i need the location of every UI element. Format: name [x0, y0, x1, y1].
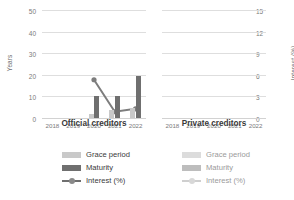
panel-title-official-creditors: Official creditors	[39, 119, 149, 128]
legend-item-grace-period[interactable]: Grace period	[62, 148, 130, 161]
legend-item-interest[interactable]: Interest (%)	[182, 174, 250, 187]
legend-swatch-interest	[62, 178, 81, 184]
legend-swatch-interest	[182, 178, 201, 184]
plot-panels: Years Interest (%) 0 10 20 30 40 50 0 3 …	[0, 0, 294, 128]
plot-area-private-creditors: 20182019202020212022	[162, 10, 266, 119]
y-tick-left-20: 20	[18, 74, 36, 81]
y-tick-left-30: 30	[18, 52, 36, 59]
legend-label-maturity: Maturity	[206, 161, 233, 174]
bar-maturity-2021	[115, 96, 120, 118]
legend-item-maturity[interactable]: Maturity	[62, 161, 130, 174]
legend-item-interest[interactable]: Interest (%)	[62, 174, 130, 187]
legend-item-grace-period[interactable]: Grace period	[182, 148, 250, 161]
legend-swatch-maturity	[182, 165, 201, 171]
legend-swatch-grace-period	[182, 152, 201, 158]
y-axis-title-right: Interest (%)	[290, 46, 294, 81]
bar-maturity-2020	[94, 96, 99, 118]
bar-maturity-2022	[136, 76, 141, 119]
legend-label-interest: Interest (%)	[206, 174, 245, 187]
legend-private-creditors: Grace period Maturity Interest (%)	[182, 148, 250, 187]
y-tick-left-40: 40	[18, 31, 36, 38]
interest-marker-2020	[91, 77, 96, 82]
panel-title-private-creditors: Private creditors	[159, 119, 269, 128]
y-tick-left-0: 0	[18, 117, 36, 124]
legend-swatch-maturity	[62, 165, 81, 171]
legend-item-maturity[interactable]: Maturity	[182, 161, 250, 174]
legend-label-grace-period: Grace period	[206, 148, 250, 161]
legend-label-interest: Interest (%)	[86, 174, 125, 187]
legend-label-grace-period: Grace period	[86, 148, 130, 161]
chart-figure: Years Interest (%) 0 10 20 30 40 50 0 3 …	[0, 0, 294, 200]
y-tick-left-10: 10	[18, 95, 36, 102]
bar-grace-period-2021	[109, 110, 114, 118]
bar-grace-period-2020	[89, 114, 94, 118]
interest-line-private	[162, 10, 266, 119]
legend-official-creditors: Grace period Maturity Interest (%)	[62, 148, 130, 187]
legend-label-maturity: Maturity	[86, 161, 113, 174]
legend-swatch-grace-period	[62, 152, 81, 158]
y-axis-title-left: Years	[6, 55, 13, 72]
plot-area-official-creditors: 20182019202020212022	[42, 10, 146, 119]
bar-grace-period-2022	[130, 108, 135, 118]
y-tick-left-50: 50	[18, 9, 36, 16]
